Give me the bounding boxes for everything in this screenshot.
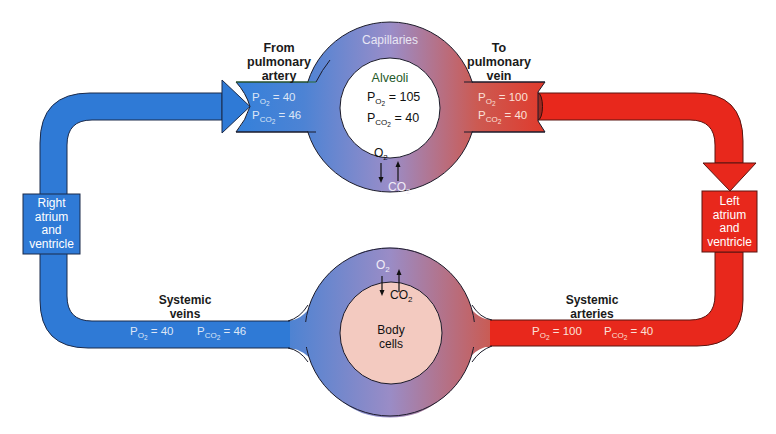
label-line: arteries [557,307,627,321]
systemic-arteries-label: Systemic arteries [557,293,627,321]
left-heart-label: Left atrium and ventricle [702,195,757,249]
label-line: Right [23,197,80,211]
pulmonary-artery-po2: PO2 = 40 [252,91,295,107]
label-line: Body [355,323,427,337]
alveoli-po2: PO2 = 105 [367,90,420,107]
label-line: pulmonary [464,55,534,69]
label-line: Systemic [150,293,220,307]
label-line: veins [150,307,220,321]
systemic-veins-pco2: PCO2 = 46 [197,325,246,341]
systemic-arteries-pco2: PCO2 = 40 [604,325,653,341]
capillaries-label: Capillaries [340,33,440,47]
label-line: cells [355,337,427,351]
alveoli-pco2: PCO2 = 40 [367,111,419,128]
systemic-veins-po2: PO2 = 40 [130,325,173,341]
right-heart-label: Right atrium and ventricle [23,197,80,251]
pulmonary-vein-po2: PO2 = 100 [478,91,528,107]
label-line: Systemic [557,293,627,307]
label-line: artery [244,69,314,83]
circulation-diagram [0,0,776,434]
label-line: and [23,224,80,238]
label-line: atrium [23,211,80,225]
from-pulmonary-artery-label: From pulmonary artery [244,41,314,83]
label-line: atrium [702,209,757,223]
to-pulmonary-vein-label: To pulmonary vein [464,41,534,83]
o2-label-systemic: O2 [376,258,390,274]
label-line: Left [702,195,757,209]
co2-label-systemic: CO2 [390,288,412,304]
arrowhead-to-left-heart [703,163,756,191]
label-line: pulmonary [244,55,314,69]
pulmonary-vein-pco2: PCO2 = 40 [478,109,527,125]
body-cells-label: Body cells [355,323,427,351]
alveoli-label: Alveoli [350,71,430,85]
o2-label-pulmonary: O2 [374,146,388,162]
co2-label-pulmonary: CO2 [388,180,410,196]
pulmonary-artery-pco2: PCO2 = 46 [252,109,301,125]
label-line: ventricle [23,238,80,252]
systemic-veins-label: Systemic veins [150,293,220,321]
label-line: vein [464,69,534,83]
label-line: and [702,222,757,236]
label-line: To [464,41,534,55]
label-line: From [244,41,314,55]
label-line: ventricle [702,236,757,250]
systemic-arteries-po2: PO2 = 100 [532,325,582,341]
